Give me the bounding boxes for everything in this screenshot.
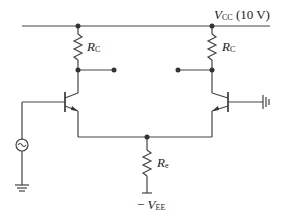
q1-emitter-arrow <box>71 106 78 111</box>
vee-label: − VEE <box>137 198 165 212</box>
output-left-terminal <box>112 68 117 73</box>
rc-right-resistor <box>208 34 216 60</box>
vcc-label: VCC (10 V) <box>214 8 270 22</box>
re-label: Re <box>157 156 169 170</box>
q2-emitter-arrow <box>212 106 219 111</box>
output-right-terminal <box>176 68 181 73</box>
rc-right-label: RC <box>222 40 235 54</box>
rc-left-label: RC <box>87 40 100 54</box>
re-resistor <box>143 150 151 176</box>
rc-left-resistor <box>74 34 82 60</box>
circuit-diagram <box>0 0 287 216</box>
